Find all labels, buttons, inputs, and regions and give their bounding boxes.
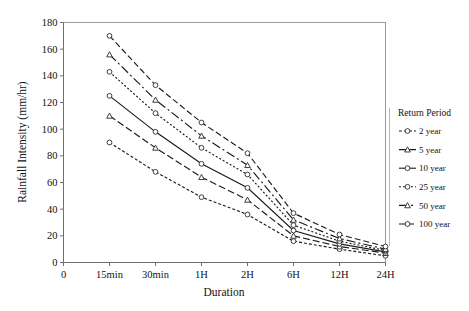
legend-item-label: 50 year	[419, 201, 446, 211]
data-point-marker	[291, 211, 296, 216]
data-point-marker	[153, 169, 158, 174]
data-point-marker	[291, 228, 296, 233]
y-tick-label: 160	[42, 44, 58, 55]
data-point-marker	[107, 69, 112, 74]
y-tick-label: 60	[47, 177, 58, 188]
legend-marker	[405, 129, 410, 134]
legend-item-label: 100 year	[419, 219, 450, 229]
data-point-marker	[291, 223, 296, 228]
y-tick-label: 80	[47, 150, 58, 161]
y-tick-label: 120	[42, 97, 58, 108]
legend-item-label: 10 year	[419, 163, 446, 173]
data-point-marker	[291, 239, 296, 244]
rainfall-intensity-duration-chart: 020406080100120140160180 015min30min1H2H…	[0, 0, 469, 311]
data-point-marker	[153, 111, 158, 116]
x-tick-label: 0	[61, 269, 66, 280]
data-point-marker	[199, 161, 204, 166]
y-axis-title: Rainfall Intensity (mm/hr)	[16, 81, 29, 203]
data-point-marker	[199, 145, 204, 150]
data-point-marker	[245, 212, 250, 217]
data-point-marker	[107, 140, 112, 145]
x-tick-label: 1H	[195, 269, 208, 280]
legend-item-label: 2 year	[419, 126, 441, 136]
x-axis-title: Duration	[204, 286, 245, 298]
legend-item-label: 5 year	[419, 145, 441, 155]
data-point-marker	[153, 83, 158, 88]
data-point-marker	[245, 185, 250, 190]
chart-background	[0, 0, 469, 311]
data-point-marker	[153, 129, 158, 134]
data-point-marker	[245, 151, 250, 156]
data-point-marker	[337, 232, 342, 237]
legend-marker	[405, 222, 410, 227]
x-tick-label: 6H	[287, 269, 300, 280]
y-tick-label: 180	[42, 17, 58, 28]
data-point-marker	[383, 244, 388, 249]
y-tick-label: 40	[47, 204, 58, 215]
x-tick-label: 2H	[241, 269, 254, 280]
data-point-marker	[107, 33, 112, 38]
y-tick-label: 0	[52, 257, 57, 268]
x-tick-label: 30min	[142, 269, 170, 280]
data-point-marker	[199, 195, 204, 200]
legend-item-label: 25 year	[419, 182, 446, 192]
data-point-marker	[199, 120, 204, 125]
legend-marker	[405, 184, 410, 189]
data-point-marker	[245, 172, 250, 177]
legend-title: Return Period	[398, 108, 451, 118]
data-point-marker	[107, 93, 112, 98]
x-tick-label: 15min	[96, 269, 124, 280]
x-tick-label: 24H	[376, 269, 395, 280]
x-tick-label: 12H	[330, 269, 349, 280]
y-tick-label: 20	[47, 230, 58, 241]
y-tick-label: 140	[42, 70, 58, 81]
legend-marker	[405, 166, 410, 171]
y-tick-label: 100	[42, 124, 58, 135]
